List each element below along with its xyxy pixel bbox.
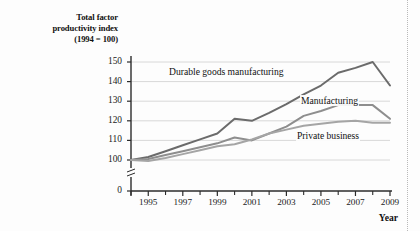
y-tick-label: 130	[92, 95, 122, 105]
y-tick-label: 150	[92, 56, 122, 66]
x-tick-label: 2005	[304, 197, 338, 207]
y-tick-label: 100	[92, 154, 122, 164]
chart-page: Total factor productivity index (1994 = …	[0, 0, 420, 231]
x-tick-label: 1997	[166, 197, 200, 207]
x-axis-title: Year	[379, 212, 398, 223]
x-tick-label: 2001	[235, 197, 269, 207]
y-tick-label: 0	[92, 185, 122, 195]
y-tick-label: 110	[92, 134, 122, 144]
y-tick-label: 120	[92, 115, 122, 125]
y-tick-label: 140	[92, 76, 122, 86]
series-label: Private business	[296, 130, 360, 141]
x-tick-label: 2007	[338, 197, 372, 207]
x-tick-label: 1999	[200, 197, 234, 207]
series-label: Manufacturing	[300, 95, 359, 106]
x-tick-label: 1995	[131, 197, 165, 207]
series-label: Durable goods manufacturing	[168, 66, 285, 77]
x-tick-label: 2009	[373, 197, 407, 207]
axis-break-mark-upper	[127, 169, 135, 172]
axis-break-mark-lower	[127, 173, 135, 176]
x-tick-label: 2003	[269, 197, 303, 207]
